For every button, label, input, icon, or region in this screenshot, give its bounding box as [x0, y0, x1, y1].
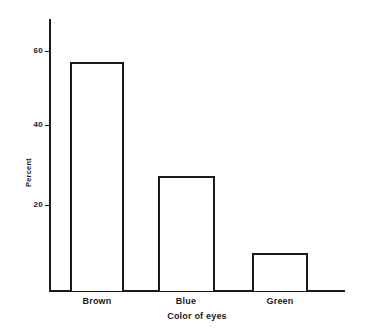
y-tick-label-60: 60 — [0, 47, 43, 55]
y-tick-mark-40 — [45, 125, 50, 126]
x-tick-label-green: Green — [245, 296, 315, 306]
y-tick-40: 40 — [0, 121, 43, 131]
bar-chart-figure: 60 40 20 Percent Brown Blue Green Color … — [0, 0, 367, 333]
bar-brown — [70, 62, 124, 292]
y-tick-mark-60 — [45, 51, 50, 52]
x-tick-mark-brown-left — [70, 286, 71, 291]
x-tick-mark-blue-left — [158, 286, 159, 291]
y-axis-title: Percent — [24, 138, 33, 208]
y-tick-label-20: 20 — [0, 201, 43, 209]
x-axis-title: Color of eyes — [49, 311, 345, 321]
y-tick-label-40: 40 — [0, 121, 43, 129]
x-tick-mark-brown-right — [123, 286, 124, 291]
x-tick-mark-blue-right — [214, 286, 215, 291]
x-tick-mark-green-left — [252, 286, 253, 291]
x-tick-label-brown: Brown — [62, 296, 132, 306]
y-tick-60: 60 — [0, 47, 43, 57]
y-axis-line — [49, 19, 51, 292]
x-tick-label-blue: Blue — [151, 296, 221, 306]
bar-blue — [158, 176, 215, 291]
x-tick-mark-green-right — [307, 286, 308, 291]
y-tick-mark-20 — [45, 205, 50, 206]
y-tick-20: 20 — [0, 201, 43, 211]
bar-green — [252, 253, 308, 291]
